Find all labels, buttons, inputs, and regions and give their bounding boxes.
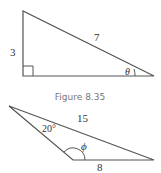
side-vertical-label: 3 — [10, 46, 16, 58]
obtuse-triangle: 15 20° ϕ 8 — [9, 106, 154, 173]
hypotenuse-label: 7 — [94, 31, 100, 43]
theta-arc — [134, 69, 135, 76]
theta-label: θ — [125, 66, 130, 77]
right-triangle: 3 7 θ — [10, 11, 154, 77]
diagram-canvas: 3 7 θ Figure 8.35 15 20° ϕ 8 — [0, 0, 161, 173]
long-side-label: 15 — [77, 112, 89, 124]
right-angle-marker — [23, 66, 33, 76]
right-triangle-outline — [23, 11, 154, 76]
phi-label: ϕ — [81, 140, 87, 152]
base-side-label: 8 — [97, 161, 103, 173]
figure-caption: Figure 8.35 — [55, 92, 105, 102]
known-angle-label: 20° — [42, 123, 56, 134]
